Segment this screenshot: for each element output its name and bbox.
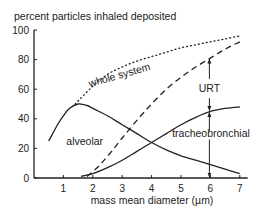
x-tick-label: 7 — [237, 183, 243, 194]
x-tick-label: 5 — [178, 183, 184, 194]
y-tick-label: 0 — [23, 173, 29, 184]
axes — [34, 30, 248, 178]
y-tick-label: 40 — [18, 113, 30, 124]
x-tick-label: 2 — [90, 183, 96, 194]
urt-label: URT — [199, 82, 221, 94]
x-tick-label: 6 — [208, 183, 214, 194]
series-group — [49, 36, 240, 177]
x-tick-label: 4 — [149, 183, 155, 194]
y-axis-label: percent particles inhaled deposited — [14, 10, 176, 22]
x-tick-label: 3 — [119, 183, 125, 194]
y-tick-label: 20 — [18, 143, 30, 154]
x-tick-label: 1 — [61, 183, 67, 194]
tracheobronchial-label: tracheobronchial — [172, 127, 250, 139]
y-ticks: 020406080100 — [12, 25, 37, 184]
series-upper-line — [87, 42, 240, 177]
deposition-chart: percent particles inhaled deposited 0204… — [0, 0, 266, 216]
y-tick-label: 60 — [18, 84, 30, 95]
y-tick-label: 100 — [12, 25, 29, 36]
x-axis-label: mass mean diameter (µm) — [91, 194, 214, 206]
alveolar-label: alveolar — [66, 135, 103, 147]
whole-system-label: whole system — [86, 60, 152, 89]
y-tick-label: 80 — [18, 54, 30, 65]
annotations: whole systemalveolartracheobronchialURT — [66, 59, 249, 177]
